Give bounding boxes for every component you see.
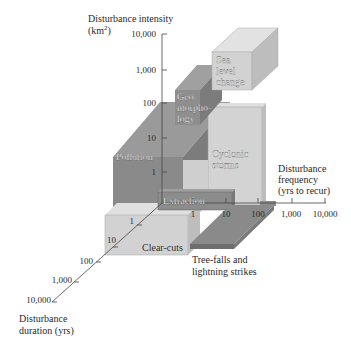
pollution-label: Pollution bbox=[116, 151, 153, 162]
z-tick-100: 100 bbox=[80, 256, 94, 266]
svg-text:(yrs to recur): (yrs to recur) bbox=[278, 185, 330, 197]
svg-text:lightning strikes: lightning strikes bbox=[192, 266, 257, 277]
y-tick-1000: 1,000 bbox=[136, 65, 157, 75]
svg-text:Cyclonic: Cyclonic bbox=[212, 148, 249, 159]
clear-cuts-label: Clear-cuts bbox=[142, 242, 183, 253]
x-tick-10: 10 bbox=[222, 209, 232, 219]
svg-text:(km2): (km2) bbox=[88, 24, 111, 37]
x-tick-10000: 10,000 bbox=[313, 209, 338, 219]
svg-text:Disturbance: Disturbance bbox=[278, 163, 327, 174]
svg-text:Tree-falls and: Tree-falls and bbox=[192, 254, 247, 265]
extraction-label: Extraction bbox=[163, 195, 205, 206]
x-tick-100: 100 bbox=[251, 209, 265, 219]
svg-text:logy: logy bbox=[177, 113, 195, 124]
x-tick-1000: 1,000 bbox=[281, 209, 302, 219]
svg-text:morpho-: morpho- bbox=[177, 102, 211, 113]
tree-falls-label: Tree-falls and lightning strikes bbox=[192, 254, 257, 277]
y-tick-10000: 10,000 bbox=[131, 29, 156, 39]
z-axis-title: Disturbance duration (yrs) bbox=[19, 313, 74, 337]
svg-text:frequency: frequency bbox=[278, 174, 318, 185]
z-tick-10000: 10,000 bbox=[26, 295, 51, 305]
svg-text:Geo-: Geo- bbox=[177, 91, 197, 102]
x-axis-title: Disturbance frequency (yrs to recur) bbox=[278, 163, 330, 197]
svg-text:storms: storms bbox=[212, 159, 239, 170]
svg-text:level: level bbox=[216, 65, 236, 76]
y-tick-1: 1 bbox=[152, 167, 157, 177]
z-tick-10: 10 bbox=[107, 235, 117, 245]
svg-text:Disturbance: Disturbance bbox=[19, 313, 68, 324]
svg-text:Disturbance intensity: Disturbance intensity bbox=[88, 13, 173, 24]
disturbance-3d-diagram: 10,000 1,000 100 10 1 1 10 100 1,000 10,… bbox=[0, 0, 351, 350]
z-tick-1000: 1,000 bbox=[52, 275, 73, 285]
y-tick-10: 10 bbox=[147, 133, 157, 143]
svg-text:duration (yrs): duration (yrs) bbox=[19, 325, 74, 337]
svg-text:Sea: Sea bbox=[216, 54, 231, 65]
z-tick-1: 1 bbox=[130, 216, 135, 226]
svg-text:change: change bbox=[216, 76, 245, 87]
x-tick-1: 1 bbox=[191, 209, 196, 219]
y-tick-100: 100 bbox=[143, 98, 157, 108]
